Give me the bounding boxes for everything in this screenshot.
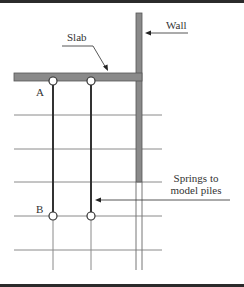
node-top-2 — [87, 77, 95, 85]
springs-label-line1: Springs to — [166, 172, 226, 184]
wall-label: Wall — [166, 19, 187, 31]
node-b-label: B — [36, 203, 43, 215]
springs-label-line2: model piles — [166, 184, 226, 196]
node-b — [49, 212, 57, 220]
springs-arrowhead-icon — [95, 198, 101, 203]
springs-label: Springs to model piles — [166, 172, 226, 196]
node-a — [49, 77, 57, 85]
wall-arrowhead-icon — [145, 31, 151, 36]
pile-extensions — [53, 216, 91, 270]
diagram-frame: Wall Slab A B Springs to model piles — [0, 0, 244, 287]
structural-diagram — [0, 0, 244, 287]
slab-label: Slab — [67, 31, 87, 43]
slab-member — [14, 73, 142, 81]
node-a-label: A — [36, 86, 44, 98]
slab-leader-line — [62, 46, 106, 68]
node-bottom-2 — [87, 212, 95, 220]
slab-arrowhead-icon — [103, 65, 108, 72]
wall-member — [136, 13, 142, 182]
